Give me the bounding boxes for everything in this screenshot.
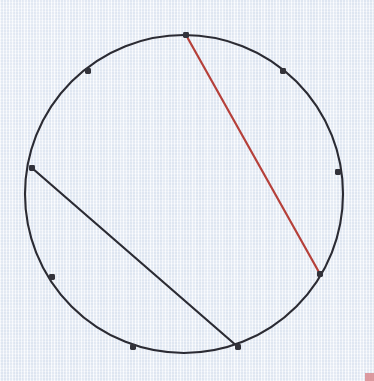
- geometry-drawing: [0, 0, 374, 381]
- point-marker-lower-left: [49, 274, 55, 280]
- point-marker-bottom: [130, 344, 136, 350]
- circle-outline: [25, 35, 343, 353]
- figure-canvas: [0, 0, 374, 381]
- point-marker-bottom-right: [235, 344, 241, 350]
- point-marker-top: [183, 32, 189, 38]
- black-chord: [32, 168, 238, 347]
- red-chord: [186, 35, 320, 274]
- point-marker-upper-right: [280, 68, 286, 74]
- point-marker-right: [335, 169, 341, 175]
- point-marker-left: [29, 165, 35, 171]
- point-marker-upper-left: [85, 68, 91, 74]
- corner-artifact: [365, 373, 374, 381]
- point-marker-lower-right: [317, 271, 323, 277]
